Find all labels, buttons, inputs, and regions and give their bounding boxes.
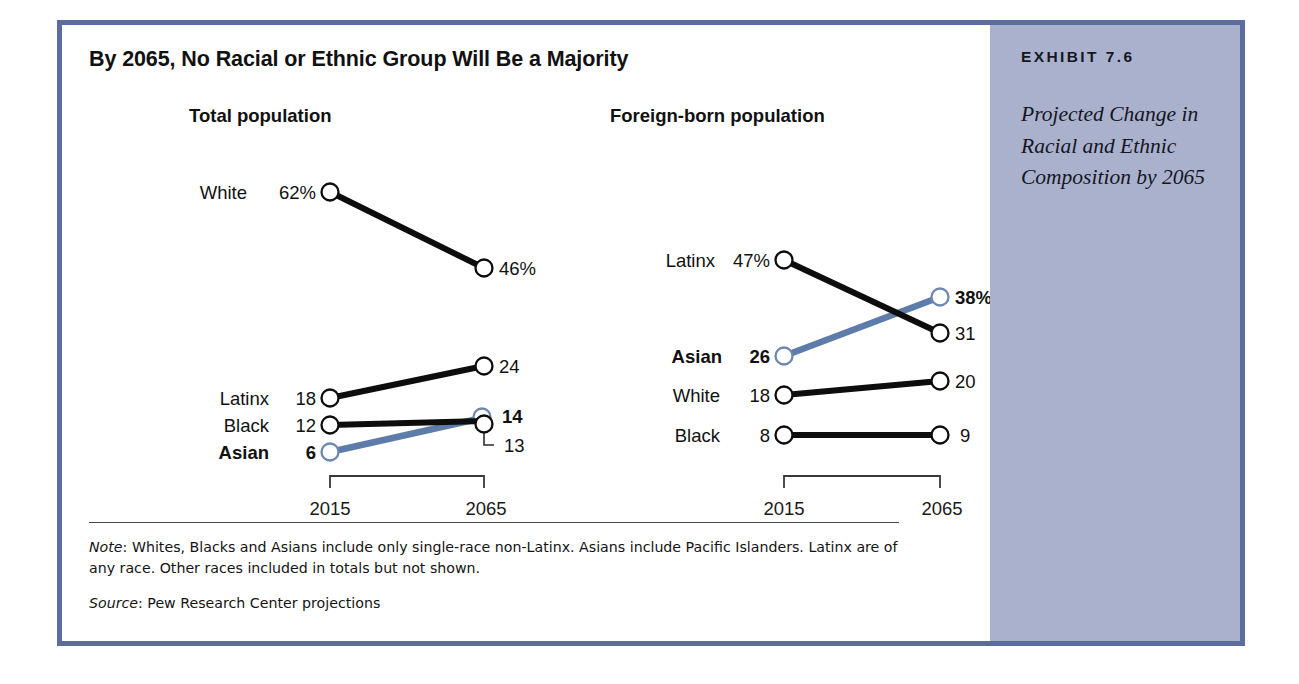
source-lead: Source [89, 595, 138, 611]
axis-bracket-foreign [784, 476, 940, 488]
exhibit-caption: Projected Change in Racial and Ethnic Co… [1021, 99, 1211, 194]
label-total-white-2065-value: 46% [499, 258, 536, 279]
marker-total-black-2015 [322, 417, 339, 434]
marker-foreign-black-2015 [776, 427, 793, 444]
slope-line-total-black [330, 421, 484, 425]
source-text: Source: Pew Research Center projections [89, 593, 919, 614]
label-foreign-white-2015-value: 18 [749, 385, 770, 406]
slope-line-total-white [330, 192, 484, 268]
marker-foreign-latinx-2065 [932, 325, 949, 342]
label-foreign-latinx-2065-value: 31 [955, 323, 976, 344]
exhibit-number-label: EXHIBIT 7.6 [1021, 48, 1134, 66]
panel-total-population: White 62% 46% Latinx 18 24 [200, 182, 536, 519]
slope-line-total-latinx [330, 366, 484, 398]
marker-total-white-2065 [476, 260, 493, 277]
axis-bracket-total [330, 476, 484, 488]
series-foreign-white: White 18 20 [673, 371, 976, 406]
chart-panel: By 2065, No Racial or Ethnic Group Will … [62, 25, 990, 641]
axis-tick-total-2015: 2015 [309, 498, 350, 519]
label-foreign-white-2065-value: 20 [955, 371, 976, 392]
slope-line-foreign-asian [784, 297, 940, 356]
label-foreign-white-name: White [673, 385, 720, 406]
series-total-latinx: Latinx 18 24 [220, 356, 520, 409]
panel-foreign-born-population: Asian 26 38% Latinx 47% 31 [666, 250, 990, 519]
label-total-asian-name: Asian [219, 442, 269, 463]
axis-tick-foreign-2015: 2015 [763, 498, 804, 519]
note-lead: Note [89, 539, 123, 555]
label-foreign-black-2065-value: 9 [960, 425, 970, 446]
label-foreign-latinx-name: Latinx [666, 250, 716, 271]
label-foreign-latinx-2015-value: 47% [733, 250, 770, 271]
marker-foreign-asian-2065 [932, 289, 949, 306]
note-text: Note: Whites, Blacks and Asians include … [89, 537, 919, 579]
marker-total-asian-2015 [322, 444, 339, 461]
series-foreign-black: Black 8 9 [675, 425, 971, 446]
label-foreign-black-2015-value: 8 [760, 425, 770, 446]
exhibit-frame: By 2065, No Racial or Ethnic Group Will … [57, 20, 1245, 646]
marker-total-white-2015 [322, 184, 339, 201]
label-total-latinx-2015-value: 18 [295, 388, 316, 409]
exhibit-sidebar: EXHIBIT 7.6 Projected Change in Racial a… [990, 25, 1240, 641]
marker-foreign-white-2065 [932, 373, 949, 390]
note-body: : Whites, Blacks and Asians include only… [89, 539, 898, 576]
series-total-asian [322, 409, 491, 461]
label-total-asian-2015-value: 6 [306, 442, 316, 463]
label-foreign-asian-2065-value: 38% [955, 287, 990, 308]
marker-foreign-asian-2015 [776, 348, 793, 365]
slopegraph-plot: White 62% 46% Latinx 18 24 [62, 25, 990, 525]
axis-tick-total-2065: 2065 [465, 498, 506, 519]
label-foreign-black-name: Black [675, 425, 721, 446]
label-foreign-asian-2015-value: 26 [749, 346, 770, 367]
footnote-divider [89, 522, 899, 523]
label-total-latinx-name: Latinx [220, 388, 270, 409]
marker-total-black-2065 [476, 416, 493, 433]
label-total-white-2015-value: 62% [279, 182, 316, 203]
marker-total-latinx-2015 [322, 390, 339, 407]
source-body: : Pew Research Center projections [138, 595, 380, 611]
label-total-latinx-2065-value: 24 [499, 356, 520, 377]
label-total-black-name: Black [224, 415, 270, 436]
label-total-white-name: White [200, 182, 247, 203]
marker-foreign-white-2015 [776, 387, 793, 404]
series-foreign-latinx: Latinx 47% 31 [666, 250, 976, 344]
label-total-asian-2065-value: 14 [502, 406, 523, 427]
slope-line-foreign-white [784, 381, 940, 395]
label-total-black-2015-value: 12 [295, 415, 316, 436]
axis-tick-foreign-2065: 2065 [921, 498, 962, 519]
leader-line-total-black-2065 [484, 433, 494, 445]
marker-foreign-black-2065 [932, 427, 949, 444]
label-foreign-asian-name: Asian [672, 346, 722, 367]
label-total-black-2065-value: 13 [504, 435, 525, 456]
slope-line-foreign-latinx [784, 260, 940, 333]
marker-foreign-latinx-2015 [776, 252, 793, 269]
series-total-white: White 62% 46% [200, 182, 536, 279]
marker-total-latinx-2065 [476, 358, 493, 375]
